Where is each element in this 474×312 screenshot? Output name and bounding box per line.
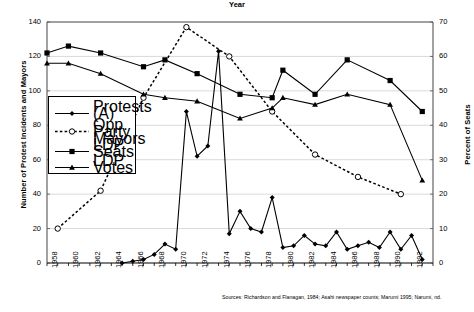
y-tick-label: 0 bbox=[15, 258, 41, 267]
legend-symbol-2 bbox=[53, 142, 91, 151]
x-tick-label: 1984 bbox=[329, 251, 338, 268]
data-point-marker bbox=[184, 109, 189, 114]
data-point-marker bbox=[345, 57, 350, 62]
data-point-marker bbox=[366, 240, 371, 245]
x-tick-label: 1960 bbox=[71, 251, 80, 268]
data-point-marker bbox=[270, 95, 275, 100]
x-tick-label: 1968 bbox=[157, 251, 166, 268]
x-tick-label: 1982 bbox=[307, 251, 316, 268]
data-point-marker bbox=[345, 247, 350, 252]
y-tick-label: 120 bbox=[15, 51, 41, 60]
data-point-marker bbox=[162, 57, 167, 62]
y-tick-label: 60 bbox=[15, 155, 41, 164]
x-tick-label: 1992 bbox=[415, 251, 424, 268]
y2-tick-label: 10 bbox=[439, 224, 465, 233]
data-point-marker bbox=[98, 50, 103, 55]
data-point-marker bbox=[355, 243, 360, 248]
x-tick-label: 1958 bbox=[50, 251, 59, 268]
series-line-0 bbox=[122, 51, 422, 263]
x-tick-label: 1988 bbox=[372, 251, 381, 268]
x-tick-label: 1978 bbox=[264, 251, 273, 268]
data-point-marker bbox=[195, 71, 200, 76]
data-point-marker bbox=[388, 78, 393, 83]
data-point-marker bbox=[227, 231, 232, 236]
legend-label-3: LDP Votes bbox=[93, 157, 135, 171]
y-tick-label: 100 bbox=[15, 86, 41, 95]
chart-legend: Protests (A)Opp. PartyMayorsLDP SeatsLDP… bbox=[48, 96, 136, 174]
x-tick-label: 1974 bbox=[222, 251, 231, 268]
data-point-marker bbox=[280, 245, 285, 250]
y2-tick-label: 70 bbox=[439, 17, 465, 26]
x-tick-label: 1986 bbox=[350, 251, 359, 268]
data-point-marker bbox=[227, 54, 232, 59]
legend-label-0: Protests (A) bbox=[93, 103, 152, 117]
legend-symbol-3 bbox=[53, 158, 91, 167]
data-point-marker bbox=[238, 209, 243, 214]
data-point-marker bbox=[270, 195, 275, 200]
x-tick-label: 1962 bbox=[93, 251, 102, 268]
y-tick-label: 140 bbox=[15, 17, 41, 26]
x-tick-label: 1972 bbox=[200, 251, 209, 268]
y2-tick-label: 60 bbox=[439, 51, 465, 60]
y-tick-label: 20 bbox=[15, 224, 41, 233]
data-point-marker bbox=[312, 152, 317, 157]
data-point-marker bbox=[419, 177, 425, 182]
data-point-marker bbox=[55, 226, 60, 231]
data-point-marker bbox=[355, 174, 360, 179]
x-tick-label: 1980 bbox=[286, 251, 295, 268]
data-point-marker bbox=[280, 68, 285, 73]
x-tick-label: 1966 bbox=[136, 251, 145, 268]
data-point-marker bbox=[248, 226, 253, 231]
data-point-marker bbox=[173, 247, 178, 252]
data-point-marker bbox=[44, 50, 49, 55]
y2-tick-label: 0 bbox=[439, 258, 465, 267]
chart-figure: Number of Protest Incidents and Mayors P… bbox=[0, 0, 474, 312]
x-tick-label: 1976 bbox=[243, 251, 252, 268]
data-point-marker bbox=[280, 95, 286, 100]
data-point-marker bbox=[420, 109, 425, 114]
x-tick-label: 1970 bbox=[179, 251, 188, 268]
data-point-marker bbox=[98, 188, 103, 193]
y-tick-label: 40 bbox=[15, 189, 41, 198]
y-tick-label: 80 bbox=[15, 120, 41, 129]
data-point-marker bbox=[312, 92, 317, 97]
x-tick-label: 1990 bbox=[393, 251, 402, 268]
y2-tick-label: 20 bbox=[439, 189, 465, 198]
data-point-marker bbox=[259, 230, 264, 235]
y2-tick-label: 30 bbox=[439, 155, 465, 164]
data-point-marker bbox=[344, 91, 350, 96]
source-note: Sources: Richardson and Flanagan, 1984; … bbox=[222, 294, 441, 300]
data-point-marker bbox=[216, 49, 221, 54]
data-point-marker bbox=[184, 24, 189, 29]
y2-tick-label: 40 bbox=[439, 120, 465, 129]
legend-symbol-0 bbox=[53, 104, 91, 113]
data-point-marker bbox=[66, 44, 71, 49]
data-point-marker bbox=[237, 92, 242, 97]
legend-symbol-1 bbox=[53, 122, 91, 131]
x-tick-label: 1964 bbox=[114, 251, 123, 268]
y2-tick-label: 50 bbox=[439, 86, 465, 95]
data-point-marker bbox=[398, 191, 403, 196]
data-point-marker bbox=[141, 64, 146, 69]
